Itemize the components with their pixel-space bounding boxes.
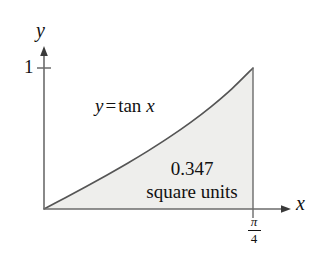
equation-equals-sign: =	[103, 95, 118, 116]
y-axis-arrowhead-icon	[40, 46, 48, 56]
y-axis-label: y	[36, 20, 45, 40]
x-bound-fraction-label: π 4	[243, 215, 265, 245]
x-axis-label: x	[296, 193, 305, 213]
area-value-label: 0.347	[155, 159, 229, 178]
plot-svg	[0, 0, 325, 258]
area-units-label: square units	[128, 182, 256, 201]
x-axis-arrowhead-icon	[281, 205, 291, 213]
equation-x-variable: x	[146, 95, 154, 116]
curve-equation-label: y=tan x	[95, 96, 155, 115]
equation-tan-function: tan	[118, 95, 141, 116]
y-axis-tick-label-1: 1	[24, 57, 34, 76]
figure-container: y x 1 y=tan x 0.347 square units π 4	[0, 0, 325, 258]
x-bound-denominator: 4	[243, 232, 265, 246]
x-bound-numerator: π	[243, 215, 265, 229]
